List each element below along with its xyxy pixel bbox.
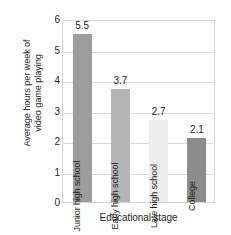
bars-layer: Junior high school5.5Early high school3.… — [63, 21, 214, 202]
bar[interactable]: Late high school — [149, 120, 168, 202]
bar-value-label: 2.1 — [190, 125, 204, 135]
y-axis-tick-label: 6 — [40, 15, 60, 25]
bar[interactable]: Early high school — [111, 89, 130, 202]
bar-value-label: 5.5 — [75, 21, 89, 31]
y-axis-tick-labels: 0123456 — [38, 0, 60, 235]
bar-category-label: College — [188, 181, 197, 211]
y-axis-tick-label: 3 — [40, 107, 60, 117]
plot-area: Junior high school5.5Early high school3.… — [62, 20, 215, 203]
y-axis-tick-label: 0 — [40, 198, 60, 208]
bar-value-label: 3.7 — [113, 76, 127, 86]
y-axis-tick-label: 4 — [40, 76, 60, 86]
y-axis-tick-label: 1 — [40, 168, 60, 178]
bar-chart: Average hours per week of video game pla… — [0, 0, 231, 235]
y-axis-tick-label: 5 — [40, 46, 60, 56]
bar[interactable]: College — [187, 138, 206, 202]
x-axis-title: Educational stage — [62, 212, 215, 224]
y-axis-tick-label: 2 — [40, 137, 60, 147]
bar[interactable]: Junior high school — [73, 34, 92, 202]
bar-value-label: 2.7 — [152, 107, 166, 117]
y-axis-title-line-1: Average hours per week of — [22, 39, 34, 146]
